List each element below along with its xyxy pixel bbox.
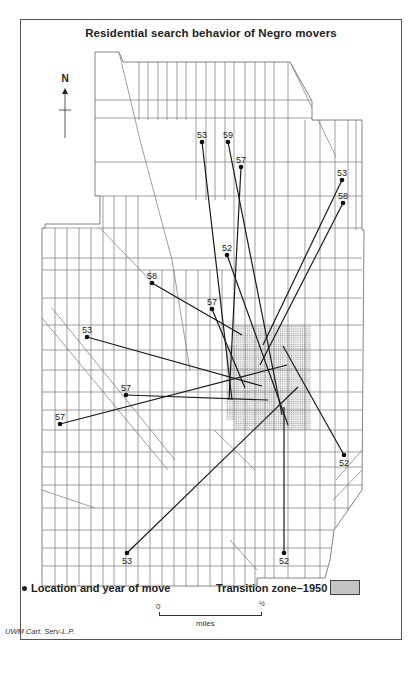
move-location-dot [58, 422, 63, 427]
move-location-dot [342, 453, 347, 458]
move-year-label: 53 [122, 556, 132, 566]
move-location-dot [340, 178, 345, 183]
move-year-label: 52 [222, 243, 232, 253]
move-line [152, 283, 242, 335]
move-location-dot [282, 551, 287, 556]
move-year-label: 53 [337, 168, 347, 178]
scale-start: 0 [156, 602, 160, 611]
move-location-dot [341, 201, 346, 206]
scale-unit: miles [196, 619, 215, 628]
move-dot-icon [22, 586, 27, 591]
legend-move-marker: Location and year of move [22, 582, 170, 594]
legend-transition-zone: Transition zone–1950 [216, 582, 327, 594]
cartography-credit: UWM Cart. Serv-L.P. [5, 627, 74, 636]
street-map: N 5359575358525857535757525352 [0, 0, 418, 677]
move-year-label: 59 [223, 130, 233, 140]
move-location-dot [239, 165, 244, 170]
move-location-dot [200, 140, 205, 145]
move-year-label: 53 [197, 130, 207, 140]
transition-zone-swatch [330, 580, 360, 595]
move-year-label: 57 [55, 412, 65, 422]
move-location-dot [226, 140, 231, 145]
move-year-label: 58 [147, 271, 157, 281]
move-line [202, 142, 232, 400]
move-location-dot [150, 281, 155, 286]
move-year-label: 53 [82, 325, 92, 335]
svg-text:N: N [61, 73, 68, 84]
move-year-label: 52 [339, 458, 349, 468]
scale-end: ½ [259, 600, 265, 607]
move-location-dot [85, 335, 90, 340]
move-location-dot [124, 393, 129, 398]
move-location-dot [225, 253, 230, 258]
move-year-label: 57 [121, 383, 131, 393]
move-year-label: 58 [338, 191, 348, 201]
move-line [263, 180, 342, 345]
move-location-dot [210, 307, 215, 312]
move-location-dot [125, 551, 130, 556]
move-line [127, 387, 298, 553]
scale-bar [159, 612, 262, 616]
move-year-label: 57 [207, 297, 217, 307]
move-year-label: 57 [236, 155, 246, 165]
north-arrow-icon: N [59, 73, 71, 138]
move-year-label: 52 [279, 556, 289, 566]
